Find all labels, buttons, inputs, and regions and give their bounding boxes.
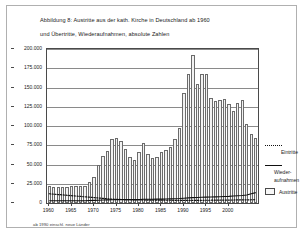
y-axis-tick-label: 200.000 — [24, 45, 42, 51]
bar — [146, 154, 149, 203]
bar — [65, 187, 68, 203]
dotted-line-icon — [265, 145, 282, 146]
y-axis-tick-label: 125.000 — [24, 103, 42, 109]
bar — [241, 100, 244, 203]
bar — [124, 149, 127, 203]
bar — [97, 165, 100, 203]
bar — [101, 156, 104, 203]
x-axis-tick-label: 1980 — [132, 207, 143, 213]
x-axis-tick-label: 2000 — [222, 207, 233, 213]
x-axis-tick — [160, 203, 161, 206]
bar — [74, 186, 77, 203]
chart-title-line-1: Abbildung 8: Austritte aus der kath. Kir… — [40, 17, 210, 23]
bar — [155, 157, 158, 203]
bar — [137, 152, 140, 203]
legend-label-wiederaufnahmen-2: aufnahmen — [274, 177, 299, 183]
bar — [205, 74, 208, 203]
bar — [92, 177, 95, 203]
bar — [245, 124, 248, 203]
y-axis-tick-label: 0 — [39, 199, 42, 205]
bar — [142, 143, 145, 203]
bar — [48, 186, 51, 203]
bar — [106, 151, 109, 203]
bar — [223, 99, 226, 203]
bar — [61, 187, 64, 203]
bar — [182, 93, 185, 203]
x-axis-tick — [71, 203, 72, 206]
x-axis-tick-label: 1995 — [200, 207, 211, 213]
bar — [164, 150, 167, 203]
plot-area — [46, 48, 259, 204]
bar — [70, 186, 73, 203]
y-axis-tick-label: 25.000 — [27, 180, 42, 186]
bar-series-austritte — [47, 49, 258, 203]
x-axis-tick — [93, 203, 94, 206]
y-axis-labels: 025.00050.00075.000100.000125.000150.000… — [15, 48, 42, 202]
y-axis-tick-label: 100.000 — [24, 122, 42, 128]
bar — [200, 74, 203, 203]
bar — [236, 103, 239, 203]
x-axis-tick-label: 1960 — [43, 207, 54, 213]
bar — [232, 111, 235, 203]
bar — [151, 158, 154, 203]
bar — [187, 74, 190, 203]
chart-legend: Eintritte Wieder- aufnahmen Austritte — [265, 142, 305, 204]
x-axis-labels: 196019651970197519801985199019952000 — [46, 203, 257, 217]
bar — [191, 55, 194, 203]
x-axis-tick — [205, 203, 206, 206]
bar — [218, 100, 221, 203]
x-axis-tick-label: 1965 — [65, 207, 76, 213]
x-axis-tick — [183, 203, 184, 206]
bar — [133, 160, 136, 203]
bar — [254, 138, 257, 203]
legend-label-wiederaufnahmen-1: Wieder- — [274, 169, 292, 175]
bar — [83, 186, 86, 203]
x-axis-tick-label: 1985 — [155, 207, 166, 213]
x-axis-tick — [228, 203, 229, 206]
solid-line-icon — [265, 165, 282, 166]
x-axis-tick — [48, 203, 49, 206]
bar — [209, 98, 212, 203]
bar — [173, 139, 176, 203]
figure-container: Abbildung 8: Austritte aus der kath. Kir… — [6, 5, 297, 228]
bar — [227, 104, 230, 203]
bar — [160, 152, 163, 203]
x-axis-tick — [138, 203, 139, 206]
y-axis-tick-label: 150.000 — [24, 84, 42, 90]
x-axis-tick-label: 1975 — [110, 207, 121, 213]
bar — [79, 186, 82, 203]
bar — [110, 139, 113, 203]
y-axis-tick-label: 50.000 — [27, 161, 42, 167]
bar — [169, 147, 172, 203]
bar — [57, 187, 60, 203]
bar — [52, 187, 55, 203]
bar — [119, 141, 122, 203]
legend-label-eintritte: Eintritte — [281, 149, 298, 155]
bar — [178, 128, 181, 203]
legend-label-austritte: Austritte — [279, 189, 297, 195]
bar — [128, 157, 131, 203]
bar — [214, 101, 217, 203]
bar-swatch-icon — [265, 188, 275, 195]
y-axis-tick-label: 175.000 — [24, 64, 42, 70]
chart-subtitle-line-2: und Übertritte, Wiederaufnahmen, absolut… — [40, 31, 169, 37]
x-axis-tick-label: 1990 — [177, 207, 188, 213]
bar — [88, 182, 91, 203]
bar — [250, 134, 253, 203]
chart-footnote: ab 1990 einschl. neue Länder — [33, 222, 90, 227]
y-axis-tick-label: 75.000 — [27, 141, 42, 147]
bar — [115, 138, 118, 203]
bar — [196, 84, 199, 203]
x-axis-tick-label: 1970 — [88, 207, 99, 213]
x-axis-tick — [116, 203, 117, 206]
